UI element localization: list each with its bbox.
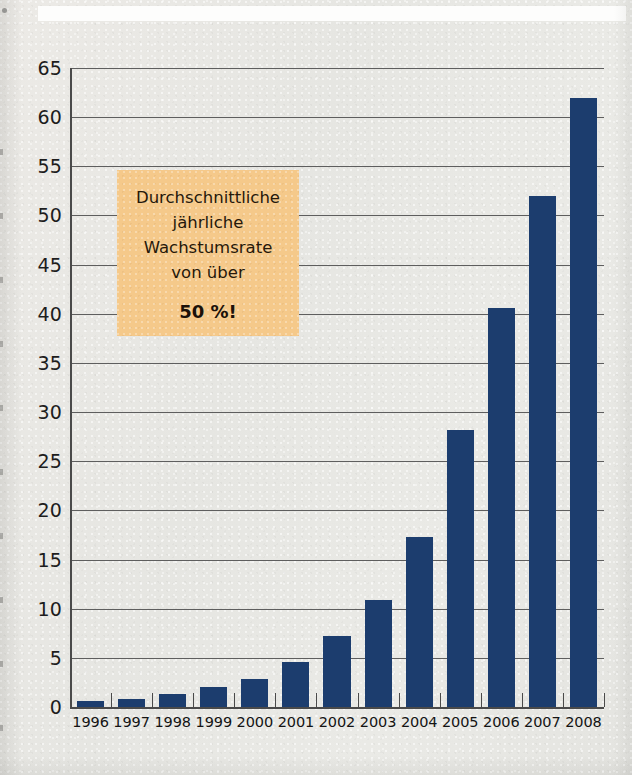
- bar-2006: [488, 308, 515, 707]
- x-tick-label-2004: 2004: [401, 714, 438, 730]
- y-tick-label-50: 50: [2, 204, 62, 226]
- x-axis-tick-labels: 1996199719981999200020012002200320042005…: [70, 714, 604, 744]
- x-tick-5: [275, 693, 276, 707]
- x-tick-3: [193, 693, 194, 707]
- y-tick-label-55: 55: [2, 155, 62, 177]
- x-axis-ticks: [70, 693, 604, 707]
- bar-2004: [406, 537, 433, 707]
- callout-line-2: jährliche: [173, 210, 244, 235]
- y-tick-label-30: 30: [2, 401, 62, 423]
- x-tick-9: [440, 693, 441, 707]
- y-tick-label-25: 25: [2, 450, 62, 472]
- bar-2003: [365, 600, 392, 707]
- y-tick-label-45: 45: [2, 254, 62, 276]
- x-tick-label-1996: 1996: [72, 714, 109, 730]
- x-tick-label-2003: 2003: [360, 714, 397, 730]
- bar-series: [70, 68, 604, 707]
- x-tick-8: [399, 693, 400, 707]
- bar-chart: 05101520253035404550556065 1996199719981…: [0, 0, 632, 775]
- x-tick-2: [152, 693, 153, 707]
- bar-2008: [570, 98, 597, 708]
- y-tick-label-15: 15: [2, 549, 62, 571]
- x-tick-10: [481, 693, 482, 707]
- x-tick-label-1998: 1998: [154, 714, 191, 730]
- y-tick-label-40: 40: [2, 303, 62, 325]
- callout-emphasis: 50 %!: [179, 301, 237, 322]
- plot-area: [70, 68, 604, 707]
- bar-2007: [529, 196, 556, 707]
- callout-line-1: Durchschnittliche: [136, 185, 280, 210]
- x-tick-1: [111, 693, 112, 707]
- x-tick-11: [522, 693, 523, 707]
- figure-page: 05101520253035404550556065 1996199719981…: [0, 0, 632, 775]
- x-tick-7: [358, 693, 359, 707]
- y-tick-label-35: 35: [2, 352, 62, 374]
- callout-line-4: von über: [171, 260, 244, 285]
- x-tick-label-2002: 2002: [319, 714, 356, 730]
- callout-line-3: Wachstumsrate: [144, 235, 273, 260]
- x-tick-label-2000: 2000: [237, 714, 274, 730]
- y-tick-label-5: 5: [2, 647, 62, 669]
- x-tick-6: [316, 693, 317, 707]
- y-tick-label-20: 20: [2, 499, 62, 521]
- y-tick-label-10: 10: [2, 598, 62, 620]
- gridline-0: [70, 707, 604, 709]
- x-tick-label-2008: 2008: [565, 714, 602, 730]
- x-tick-12: [563, 693, 564, 707]
- y-tick-label-60: 60: [2, 106, 62, 128]
- x-tick-label-2001: 2001: [278, 714, 315, 730]
- x-tick-label-2005: 2005: [442, 714, 479, 730]
- x-tick-4: [234, 693, 235, 707]
- x-tick-label-2006: 2006: [483, 714, 520, 730]
- y-tick-label-0: 0: [2, 696, 62, 718]
- x-tick-0: [70, 693, 71, 707]
- x-tick-label-2007: 2007: [524, 714, 561, 730]
- y-axis-tick-labels: 05101520253035404550556065: [0, 68, 62, 707]
- y-tick-label-65: 65: [2, 57, 62, 79]
- growth-rate-callout: Durchschnittliche jährliche Wachstumsrat…: [117, 170, 299, 336]
- x-tick-label-1997: 1997: [113, 714, 150, 730]
- x-tick-13: [604, 693, 605, 707]
- bar-2005: [447, 430, 474, 707]
- x-tick-label-1999: 1999: [196, 714, 233, 730]
